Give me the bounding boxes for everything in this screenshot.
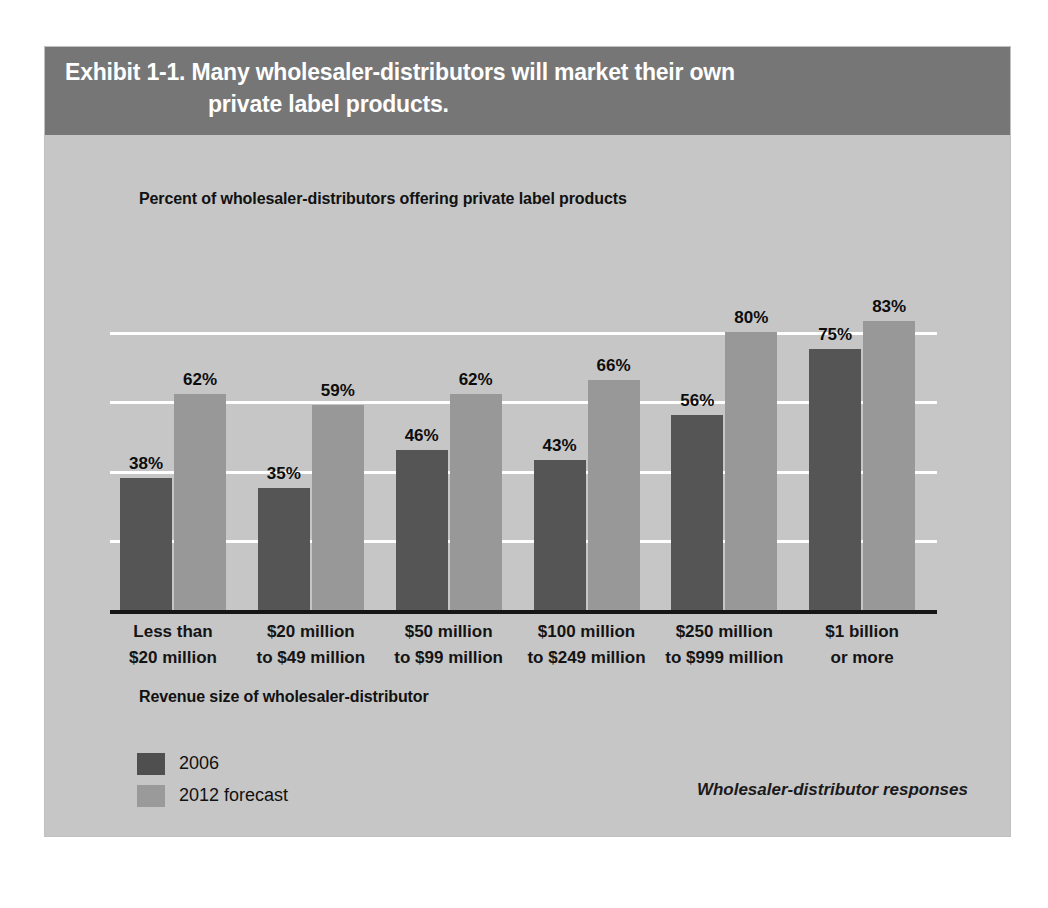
x-axis-title: Revenue size of wholesaler-distributor bbox=[139, 688, 429, 706]
bar-2012-forecast-0 bbox=[174, 394, 226, 610]
legend-label: 2006 bbox=[179, 749, 219, 778]
exhibit-panel: Exhibit 1-1. Many wholesaler-distributor… bbox=[45, 47, 1010, 836]
exhibit-page: Exhibit 1-1. Many wholesaler-distributor… bbox=[0, 0, 1048, 908]
x-axis-label-0: Less than$20 million bbox=[129, 619, 217, 671]
bar-2012-forecast-2 bbox=[450, 394, 502, 610]
bar-value-label: 35% bbox=[267, 464, 301, 484]
x-axis-label-line: $100 million bbox=[527, 619, 645, 645]
legend-label: 2012 forecast bbox=[179, 781, 288, 810]
bar-value-label: 38% bbox=[129, 454, 163, 474]
x-axis-label-line: to $249 million bbox=[527, 645, 645, 671]
bar-value-label: 56% bbox=[680, 391, 714, 411]
bar-value-label: 80% bbox=[734, 308, 768, 328]
x-axis-label-1: $20 millionto $49 million bbox=[257, 619, 366, 671]
x-axis-label-line: to $999 million bbox=[665, 645, 783, 671]
bar-value-label: 83% bbox=[872, 297, 906, 317]
x-axis-label-line: Less than bbox=[129, 619, 217, 645]
bar-2006-3 bbox=[534, 460, 586, 610]
bar-value-label: 66% bbox=[596, 356, 630, 376]
bar-2012-forecast-3 bbox=[588, 380, 640, 610]
legend-swatch-icon bbox=[137, 785, 165, 807]
bar-2006-1 bbox=[258, 488, 310, 610]
chart-plot-area: 38%62%35%59%46%62%43%66%56%80%75%83% bbox=[110, 240, 937, 612]
bar-value-label: 62% bbox=[183, 370, 217, 390]
chart-source-note: Wholesaler-distributor responses bbox=[697, 780, 968, 800]
x-axis-label-line: $20 million bbox=[257, 619, 366, 645]
exhibit-title-line-1: Exhibit 1-1. Many wholesaler-distributor… bbox=[65, 59, 735, 86]
bar-value-label: 46% bbox=[405, 426, 439, 446]
x-axis-label-line: $1 billion bbox=[825, 619, 899, 645]
x-axis-label-line: or more bbox=[825, 645, 899, 671]
x-axis-label-4: $250 millionto $999 million bbox=[665, 619, 783, 671]
chart-subtitle: Percent of wholesaler-distributors offer… bbox=[139, 190, 627, 208]
gridline-80 bbox=[110, 332, 937, 335]
bar-2006-2 bbox=[396, 450, 448, 610]
exhibit-title-line-2: private label products. bbox=[208, 91, 449, 118]
bar-value-label: 43% bbox=[542, 436, 576, 456]
x-axis-label-5: $1 billionor more bbox=[825, 619, 899, 671]
bar-2012-forecast-1 bbox=[312, 405, 364, 610]
legend-swatch-icon bbox=[137, 753, 165, 775]
bar-value-label: 75% bbox=[818, 325, 852, 345]
bar-2006-4 bbox=[671, 415, 723, 610]
exhibit-title-band: Exhibit 1-1. Many wholesaler-distributor… bbox=[45, 47, 1010, 135]
bar-value-label: 62% bbox=[459, 370, 493, 390]
bar-2012-forecast-4 bbox=[725, 332, 777, 610]
bar-value-label: 59% bbox=[321, 381, 355, 401]
x-axis-label-line: $50 million bbox=[394, 619, 503, 645]
x-axis-label-line: to $99 million bbox=[394, 645, 503, 671]
x-axis-label-line: $20 million bbox=[129, 645, 217, 671]
bar-2012-forecast-5 bbox=[863, 321, 915, 610]
x-axis-line bbox=[110, 610, 937, 614]
x-axis-label-line: to $49 million bbox=[257, 645, 366, 671]
x-axis-label-2: $50 millionto $99 million bbox=[394, 619, 503, 671]
x-axis-label-line: $250 million bbox=[665, 619, 783, 645]
bar-2006-5 bbox=[809, 349, 861, 610]
x-axis-category-labels: Less than$20 million$20 millionto $49 mi… bbox=[110, 619, 937, 675]
x-axis-label-3: $100 millionto $249 million bbox=[527, 619, 645, 671]
bar-2006-0 bbox=[120, 478, 172, 610]
